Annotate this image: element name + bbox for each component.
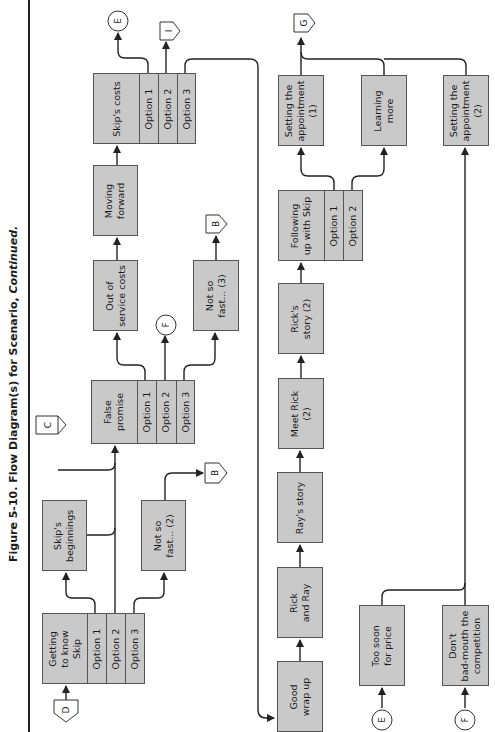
node-meet-rick-2[interactable]: Meet Rick (2) — [278, 378, 324, 449]
node-label: Ray's story — [294, 481, 306, 533]
node-label: Learning more — [372, 90, 396, 131]
option-label: Option 1 — [143, 88, 155, 129]
option-label: Option 3 — [181, 88, 193, 129]
node-moving-forward[interactable]: Moving forward — [93, 165, 138, 236]
option-3-cell[interactable]: Option 3 — [125, 614, 145, 683]
node-label: Don't bad-mouth the competition — [448, 610, 484, 681]
node-label: Skip's beginnings — [53, 509, 77, 561]
node-label: Meet Rick (2) — [289, 390, 313, 437]
connector-c[interactable]: C — [36, 416, 60, 434]
node-skips-costs[interactable]: Skip's costs Option 1 Option 2 Option 3 — [93, 73, 196, 144]
option-label: Option 2 — [347, 205, 359, 246]
node-skips-beginnings[interactable]: Skip's beginnings — [42, 500, 87, 571]
node-rick-and-ray[interactable]: Rick and Ray — [277, 567, 323, 638]
option-2-cell[interactable]: Option 2 — [158, 74, 177, 143]
node-label: Skip's costs — [111, 81, 123, 136]
option-label: Option 1 — [328, 205, 340, 246]
option-label: Option 3 — [180, 392, 192, 433]
node-rays-story[interactable]: Ray's story — [277, 472, 323, 543]
option-label: Option 2 — [110, 628, 122, 669]
connector-f-out[interactable]: F — [156, 315, 176, 335]
option-label: Option 2 — [162, 88, 174, 129]
option-2-cell[interactable]: Option 2 — [343, 191, 362, 260]
node-too-soon-for-price[interactable]: Too soon for price — [359, 605, 405, 686]
node-false-promise[interactable]: False promise Option 1 Option 2 Option 3 — [91, 380, 195, 444]
node-good-wrap-up[interactable]: Good wrap up — [277, 661, 323, 732]
node-label: Not so fast... (2) — [152, 514, 176, 557]
node-following-up-with-skip[interactable]: Following up with Skip Option 1 Option 2 — [278, 190, 363, 261]
node-label: Not so fast... (3) — [204, 274, 228, 317]
connector-b-2[interactable]: B — [206, 215, 226, 233]
option-label: Option 3 — [130, 628, 142, 669]
node-out-of-service-costs[interactable]: Out of service costs — [93, 260, 138, 331]
option-3-cell[interactable]: Option 3 — [177, 74, 196, 143]
connector-i[interactable]: I — [160, 22, 178, 40]
node-label: Rick's story (2) — [289, 298, 313, 339]
connector-e-out[interactable]: E — [108, 11, 128, 31]
connector-g[interactable]: G — [294, 14, 314, 32]
option-label: Option 1 — [91, 628, 103, 669]
node-label: Moving forward — [104, 182, 128, 218]
option-2-cell[interactable]: Option 2 — [106, 614, 125, 683]
connector-d[interactable]: D — [54, 700, 78, 720]
option-1-cell[interactable]: Option 1 — [324, 191, 343, 260]
node-label: Rick and Ray — [288, 583, 312, 622]
connector-e-in[interactable]: E — [372, 710, 392, 730]
option-2-cell[interactable]: Option 2 — [156, 381, 176, 443]
node-setting-appointment-1[interactable]: Setting the appointment (1) — [278, 75, 324, 146]
node-label: Setting the appointment (2) — [448, 80, 484, 141]
node-getting-to-know-skip[interactable]: Getting to know Skip Option 1 Option 2 O… — [42, 613, 145, 684]
node-dont-bad-mouth-competition[interactable]: Don't bad-mouth the competition — [442, 605, 489, 686]
connector-f-in[interactable]: F — [455, 710, 475, 730]
option-1-cell[interactable]: Option 1 — [87, 614, 106, 683]
connector-b-1[interactable]: B — [205, 463, 225, 483]
option-1-cell[interactable]: Option 1 — [137, 381, 156, 443]
node-label: Too soon for price — [370, 625, 394, 666]
node-not-so-fast-3[interactable]: Not so fast... (3) — [193, 260, 239, 331]
node-ricks-story-2[interactable]: Rick's story (2) — [278, 283, 324, 354]
node-label: Out of service costs — [104, 265, 128, 327]
node-setting-appointment-2[interactable]: Setting the appointment (2) — [443, 75, 489, 146]
node-label: Following up with Skip — [290, 196, 314, 254]
node-label: Getting to know Skip — [47, 630, 83, 668]
node-not-so-fast-2[interactable]: Not so fast... (2) — [141, 500, 186, 571]
node-label: False promise — [102, 393, 126, 431]
option-label: Option 2 — [161, 392, 173, 433]
node-label: Setting the appointment (1) — [283, 80, 319, 141]
option-label: Option 1 — [141, 392, 153, 433]
option-1-cell[interactable]: Option 1 — [139, 74, 158, 143]
option-3-cell[interactable]: Option 3 — [176, 381, 195, 443]
node-learning-more[interactable]: Learning more — [361, 75, 407, 146]
node-label: Good wrap up — [288, 677, 312, 716]
